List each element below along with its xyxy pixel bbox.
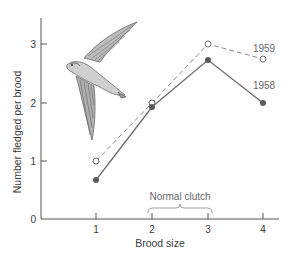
- x-axis-label: Brood size: [135, 237, 185, 249]
- series-label-1959: 1959: [253, 43, 276, 54]
- point-1959-1: [93, 158, 99, 164]
- x-tick-3: 3: [205, 224, 211, 235]
- y-tick-0: 0: [30, 214, 36, 225]
- y-tick-3: 3: [30, 39, 36, 50]
- axes: [41, 18, 279, 219]
- series-label-1958: 1958: [253, 80, 276, 91]
- chart-canvas: 0 1 2 3 1 2 3 4 Brood size Number fledge…: [0, 0, 292, 260]
- point-1958-3: [205, 57, 211, 63]
- x-tick-4: 4: [260, 224, 266, 235]
- x-tick-1: 1: [93, 224, 99, 235]
- y-tick-1: 1: [30, 156, 36, 167]
- y-tick-2: 2: [30, 98, 36, 109]
- series-1959: 1959: [93, 41, 276, 164]
- point-1959-3: [205, 41, 211, 47]
- point-1958-1: [93, 177, 99, 183]
- x-tick-2: 2: [149, 224, 155, 235]
- swift-bird-illustration: [67, 22, 137, 140]
- point-1958-2: [149, 104, 155, 110]
- normal-clutch-label: Normal clutch: [149, 191, 210, 202]
- point-1958-4: [260, 100, 266, 106]
- normal-clutch-brace: Normal clutch: [148, 191, 212, 213]
- series-1958: 1958: [93, 57, 276, 183]
- y-axis-label: Number fledged per brood: [11, 71, 23, 194]
- point-1959-4: [260, 56, 266, 62]
